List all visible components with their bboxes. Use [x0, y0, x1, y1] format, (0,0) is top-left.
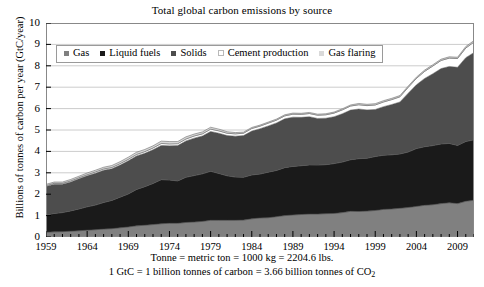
legend-label: Liquid fuels: [109, 48, 160, 59]
legend-swatch-liquid-fuels-icon: [100, 51, 105, 56]
footnote-line-2-text: 1 GtC = 1 billion tonnes of carbon = 3.6…: [109, 266, 372, 277]
legend-swatch-cement-production-icon: [218, 50, 224, 56]
chart-footnotes: Tonne = metric ton = 1000 kg = 2204.6 lb…: [0, 251, 484, 282]
legend-item-gas[interactable]: Gas: [64, 48, 89, 59]
legend-label: Gas: [73, 48, 89, 59]
legend-swatch-gas-icon: [64, 51, 69, 56]
y-axis-tick-1: 1: [22, 210, 40, 221]
y-axis-tick-3: 3: [22, 167, 40, 178]
y-axis-tick-4: 4: [22, 145, 40, 156]
y-axis-tick-7: 7: [22, 81, 40, 92]
legend-item-gas-flaring[interactable]: Gas flaring: [319, 48, 375, 59]
chart-title: Total global carbon emissions by source: [0, 4, 484, 16]
footnote-line-2: 1 GtC = 1 billion tonnes of carbon = 3.6…: [0, 265, 484, 282]
y-axis-tick-8: 8: [22, 60, 40, 71]
chart-figure: Total global carbon emissions by source …: [0, 0, 484, 287]
legend-swatch-gas-flaring-icon: [319, 51, 324, 56]
legend-label: Gas flaring: [328, 48, 375, 59]
legend-swatch-solids-icon: [171, 51, 176, 56]
co2-subscript: 2: [371, 270, 375, 279]
y-axis-tick-2: 2: [22, 188, 40, 199]
y-axis-tick-9: 9: [22, 38, 40, 49]
footnote-line-1: Tonne = metric ton = 1000 kg = 2204.6 lb…: [0, 251, 484, 265]
legend-label: Cement production: [228, 48, 309, 59]
legend-label: Solids: [180, 48, 206, 59]
y-axis-tick-6: 6: [22, 103, 40, 114]
legend-item-solids[interactable]: Solids: [171, 48, 206, 59]
y-axis-tick-5: 5: [22, 124, 40, 135]
legend-item-cement-production[interactable]: Cement production: [218, 48, 309, 59]
legend-item-liquid-fuels[interactable]: Liquid fuels: [100, 48, 160, 59]
chart-legend: GasLiquid fuelsSolidsCement productionGa…: [56, 45, 383, 63]
y-axis-tick-10: 10: [22, 17, 40, 28]
